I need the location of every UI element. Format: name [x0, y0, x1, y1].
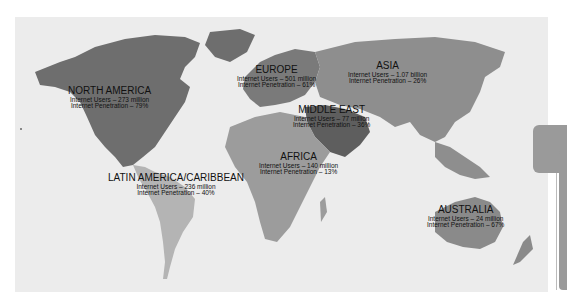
region-name: EUROPE [237, 65, 316, 76]
region-penetration: Internet Penetration – 36% [293, 122, 370, 129]
label-north-america: NORTH AMERICA Internet Users – 273 milli… [68, 86, 151, 110]
label-middle-east: MIDDLE EAST Internet Users – 77 million … [293, 105, 370, 129]
region-name: AUSTRALIA [427, 205, 504, 216]
label-australia: AUSTRALIA Internet Users – 24 million In… [427, 205, 504, 229]
southeast-asia-shape [435, 142, 490, 179]
map-speck [20, 128, 22, 130]
label-africa: AFRICA Internet Users – 140 million Inte… [259, 152, 338, 176]
label-asia: ASIA Internet Users – 1.07 billion Inter… [348, 61, 427, 85]
region-penetration: Internet Penetration – 79% [68, 103, 151, 110]
region-penetration: Internet Penetration – 13% [259, 169, 338, 176]
region-penetration: Internet Penetration – 40% [108, 190, 244, 197]
region-penetration: Internet Penetration – 67% [427, 222, 504, 229]
label-latin-america: LATIN AMERICA/CARIBBEAN Internet Users –… [108, 173, 244, 197]
region-name: AFRICA [259, 152, 338, 163]
side-panel-bar[interactable] [559, 150, 567, 290]
region-name: ASIA [348, 61, 427, 72]
label-europe: EUROPE Internet Users – 501 million Inte… [237, 65, 316, 89]
region-penetration: Internet Penetration – 61% [237, 82, 316, 89]
side-divider [556, 160, 557, 290]
region-penetration: Internet Penetration – 26% [348, 78, 427, 85]
region-name: MIDDLE EAST [293, 105, 370, 116]
madagascar-shape [320, 197, 327, 222]
region-name: LATIN AMERICA/CARIBBEAN [108, 173, 244, 184]
new-zealand-shape [513, 235, 533, 265]
region-name: NORTH AMERICA [68, 86, 151, 97]
greenland-shape [205, 29, 255, 62]
